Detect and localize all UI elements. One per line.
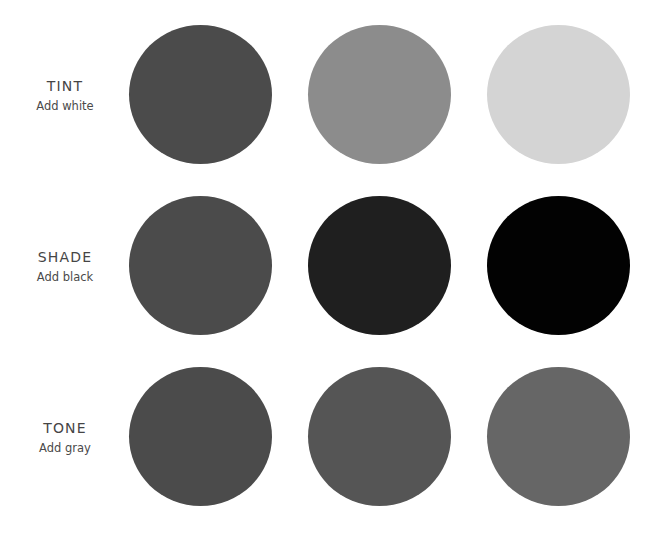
- row-title: TONE: [0, 419, 130, 437]
- row-subtitle: Add black: [0, 269, 130, 285]
- color-swatch-shade-dark: [487, 196, 630, 335]
- row-subtitle: Add white: [0, 98, 130, 114]
- color-swatch-tint-light: [487, 25, 630, 164]
- row-subtitle: Add gray: [0, 440, 130, 456]
- tint-row: TINT Add white: [0, 25, 659, 165]
- color-swatch-base: [129, 196, 272, 335]
- shade-row: SHADE Add black: [0, 196, 659, 336]
- color-swatch-base: [129, 367, 272, 506]
- color-swatch-tone-light: [487, 367, 630, 506]
- tint-label: TINT Add white: [0, 77, 130, 114]
- tone-label: TONE Add gray: [0, 419, 130, 456]
- row-title: TINT: [0, 77, 130, 95]
- color-swatch-base: [129, 25, 272, 164]
- shade-label: SHADE Add black: [0, 248, 130, 285]
- color-swatch-tint-mid: [308, 25, 451, 164]
- color-swatch-shade-mid: [308, 196, 451, 335]
- row-title: SHADE: [0, 248, 130, 266]
- color-swatch-tone-mid: [308, 367, 451, 506]
- tone-row: TONE Add gray: [0, 367, 659, 507]
